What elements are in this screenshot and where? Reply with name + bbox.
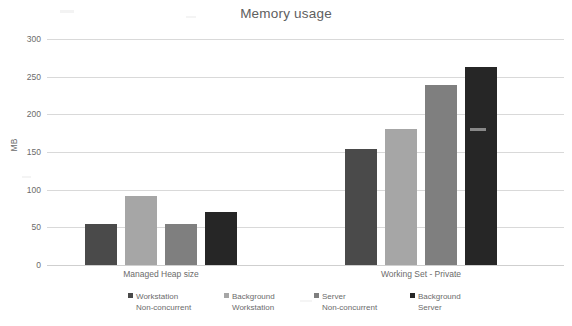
bar[interactable] bbox=[385, 129, 417, 265]
legend-item[interactable]: BackgroundWorkstation bbox=[224, 291, 275, 313]
legend-label-line2: Non-concurrent bbox=[128, 302, 191, 313]
bar[interactable] bbox=[345, 149, 377, 265]
category-label: Working Set - Private bbox=[351, 269, 491, 279]
legend-label-line2: Workstation bbox=[224, 302, 275, 313]
legend-label-line1: Background bbox=[418, 292, 461, 301]
legend-swatch-icon bbox=[314, 293, 319, 298]
y-axis-tick-labels: 300250200150100500 bbox=[0, 39, 41, 265]
bar[interactable] bbox=[85, 224, 117, 265]
memory-usage-chart: Memory usage MB 300250200150100500 Manag… bbox=[0, 0, 572, 326]
legend-label-line2: Non-concurrent bbox=[314, 302, 377, 313]
gridline-300 bbox=[47, 39, 564, 40]
bar[interactable] bbox=[465, 67, 497, 265]
legend-item[interactable]: WorkstationNon-concurrent bbox=[128, 291, 191, 313]
legend-item[interactable]: BackgroundServer bbox=[410, 291, 461, 313]
legend-label-line1: Server bbox=[322, 292, 346, 301]
plot-area bbox=[47, 39, 564, 265]
y-tick-label: 300 bbox=[7, 35, 41, 44]
y-tick-label: 100 bbox=[7, 186, 41, 195]
y-tick-label: 150 bbox=[7, 148, 41, 157]
y-tick-label: 250 bbox=[7, 73, 41, 82]
bar[interactable] bbox=[425, 85, 457, 265]
category-label: Managed Heap size bbox=[91, 269, 231, 279]
y-tick-label: 0 bbox=[7, 261, 41, 270]
gridline-0 bbox=[47, 265, 564, 266]
y-tick-label: 200 bbox=[7, 110, 41, 119]
y-tick-label: 50 bbox=[7, 223, 41, 232]
legend-swatch-icon bbox=[128, 293, 133, 298]
chart-legend: WorkstationNon-concurrentBackgroundWorks… bbox=[128, 291, 468, 321]
bar[interactable] bbox=[125, 196, 157, 265]
legend-swatch-icon bbox=[410, 293, 415, 298]
legend-item[interactable]: ServerNon-concurrent bbox=[314, 291, 377, 313]
legend-label-line1: Workstation bbox=[136, 292, 178, 301]
bar[interactable] bbox=[205, 212, 237, 265]
legend-label-line1: Background bbox=[232, 292, 275, 301]
bar[interactable] bbox=[165, 224, 197, 265]
legend-swatch-icon bbox=[224, 293, 229, 298]
legend-label-line2: Server bbox=[410, 302, 461, 313]
chart-title: Memory usage bbox=[0, 6, 572, 21]
